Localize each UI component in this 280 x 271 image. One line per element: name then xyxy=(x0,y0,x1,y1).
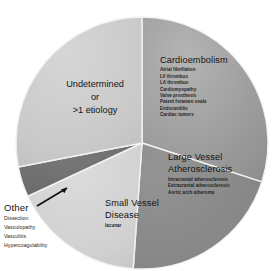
slice-title-small-vessel-disease: Small Vessel Disease xyxy=(105,198,175,222)
list-item: lacunar xyxy=(105,223,175,229)
slice-title-other: Other xyxy=(4,203,47,213)
slice-title-large-vessel-atherosclerosis: Large Vessel Atherosclerosis xyxy=(168,152,260,176)
undetermined-line-3: >1 etiology xyxy=(46,104,144,117)
slice-label-cardioembolism: Cardioembolism Atrial fibrillation LV th… xyxy=(160,56,228,118)
slice-title-cardioembolism: Cardioembolism xyxy=(160,56,228,66)
slice-label-small-vessel-disease: Small Vessel Disease lacunar xyxy=(105,198,175,229)
list-item: Cardiac tumors xyxy=(160,112,228,118)
slice-sublist-cardioembolism: Atrial fibrillation LV thrombus LA throm… xyxy=(160,67,228,118)
slice-sublist-small-vessel: lacunar xyxy=(105,223,175,229)
undetermined-line-2: or xyxy=(46,91,144,104)
list-item: Aortic arch atheroma xyxy=(168,190,260,196)
list-item: Dissection xyxy=(4,214,47,223)
list-item: Hypercoagulability xyxy=(4,241,47,250)
pie-slice-group xyxy=(16,17,268,269)
slice-sublist-other: Dissection Vasculopathy Vasculitis Hyper… xyxy=(4,214,47,250)
list-item: Vasculitis xyxy=(4,232,47,241)
slice-label-large-vessel-atherosclerosis: Large Vessel Atherosclerosis Intracrania… xyxy=(168,152,260,196)
slice-label-other: Other Dissection Vasculopathy Vasculitis… xyxy=(4,203,47,250)
list-item: Vasculopathy xyxy=(4,223,47,232)
pie-chart-figure: Cardioembolism Atrial fibrillation LV th… xyxy=(0,0,280,271)
slice-sublist-large-vessel: Intracranial atherosclerosis Extracrania… xyxy=(168,177,260,196)
slice-label-undetermined: Undetermined or >1 etiology xyxy=(46,78,144,117)
undetermined-line-1: Undetermined xyxy=(46,78,144,91)
